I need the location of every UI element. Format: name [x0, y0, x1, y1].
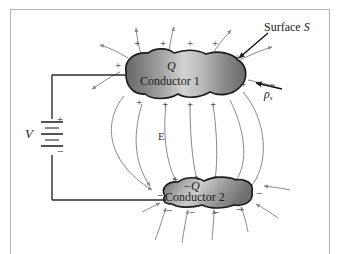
surface-label: Surface S: [264, 21, 310, 33]
minus-sign: −: [256, 188, 262, 199]
minus-sign: −: [189, 207, 195, 218]
minus-sign: −: [219, 172, 225, 183]
conductor-2-name: Conductor 2: [165, 191, 225, 203]
plus-sign: +: [160, 38, 166, 49]
rho-subscript: s: [270, 94, 273, 102]
surface-label-text: Surface S: [264, 20, 310, 34]
charge-density-label: ρs: [264, 88, 273, 102]
plus-sign: +: [240, 79, 246, 90]
plus-sign: +: [187, 99, 193, 110]
minus-sign: −: [166, 205, 172, 216]
conductor-1-charge-label: Q: [167, 60, 176, 72]
minus-sign: −: [157, 190, 163, 201]
battery-minus-terminal: −: [57, 146, 63, 157]
minus-sign: −: [172, 174, 178, 185]
plus-sign: +: [234, 52, 240, 63]
plus-sign: +: [134, 38, 140, 49]
plus-sign: +: [136, 97, 142, 108]
figure-container: + + + + + + + + + + + − − − − − − − − − …: [0, 0, 339, 254]
plus-sign: +: [187, 38, 193, 49]
minus-sign: −: [243, 176, 249, 187]
battery-symbol: [41, 122, 63, 146]
plus-sign: +: [115, 60, 121, 71]
conductor-1-name: Conductor 1: [140, 75, 200, 87]
minus-sign: −: [213, 207, 219, 218]
field-label: E: [158, 131, 165, 142]
plus-sign: +: [212, 38, 218, 49]
battery-plus-terminal: +: [57, 114, 63, 125]
minus-sign: −: [236, 204, 242, 215]
plus-sign: +: [210, 99, 216, 110]
plus-sign: +: [162, 99, 168, 110]
voltage-label: V: [25, 127, 33, 140]
